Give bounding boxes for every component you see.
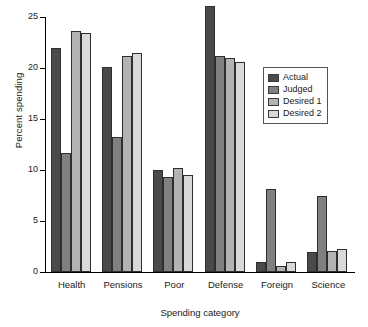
category-label-health: Health <box>46 279 97 290</box>
bar-pensions-judged <box>112 137 122 272</box>
bar-group-defense <box>205 17 245 272</box>
bar-poor-desired-1 <box>173 168 183 272</box>
y-tick-label: 10 <box>28 165 38 174</box>
legend-item-desired-2[interactable]: Desired 2 <box>268 108 322 119</box>
legend-item-judged[interactable]: Judged <box>268 84 322 95</box>
bar-science-desired-2 <box>337 249 347 272</box>
y-tick-label: 25 <box>28 12 38 21</box>
bar-defense-desired-1 <box>225 58 235 272</box>
legend-item-actual[interactable]: Actual <box>268 72 322 83</box>
legend-swatch-icon <box>268 86 279 94</box>
legend: ActualJudgedDesired 1Desired 2 <box>263 67 328 124</box>
bar-science-desired-1 <box>327 251 337 272</box>
y-tick-25 <box>40 17 45 18</box>
legend-swatch-icon <box>268 110 279 118</box>
bar-foreign-judged <box>266 189 276 272</box>
y-tick-5 <box>40 221 45 222</box>
bar-group-pensions <box>102 17 142 272</box>
plot-area <box>46 17 354 272</box>
bar-pensions-desired-1 <box>122 56 132 272</box>
bar-chart: Percent spending HealthPensionsPoorDefen… <box>0 0 368 327</box>
legend-swatch-icon <box>268 98 279 106</box>
bar-group-health <box>51 17 91 272</box>
bar-health-desired-1 <box>71 31 81 272</box>
legend-label: Judged <box>283 85 313 94</box>
legend-swatch-icon <box>268 74 279 82</box>
bar-group-foreign <box>256 17 296 272</box>
category-label-pensions: Pensions <box>97 279 148 290</box>
category-label-science: Science <box>303 279 354 290</box>
bar-health-judged <box>61 153 71 272</box>
bar-defense-actual <box>205 6 215 272</box>
category-label-defense: Defense <box>200 279 251 290</box>
bar-foreign-actual <box>256 262 266 272</box>
legend-label: Actual <box>283 73 308 82</box>
y-tick-20 <box>40 68 45 69</box>
bar-health-actual <box>51 48 61 272</box>
bar-pensions-desired-2 <box>132 53 142 272</box>
y-tick-label: 0 <box>33 267 38 276</box>
bar-poor-actual <box>153 170 163 272</box>
bar-health-desired-2 <box>81 33 91 272</box>
category-label-poor: Poor <box>149 279 200 290</box>
bar-foreign-desired-2 <box>286 262 296 272</box>
bar-pensions-actual <box>102 67 112 272</box>
bar-foreign-desired-1 <box>276 266 286 272</box>
y-tick-10 <box>40 170 45 171</box>
y-axis-title: Percent spending <box>13 41 24 181</box>
legend-label: Desired 1 <box>283 97 322 106</box>
y-tick-label: 20 <box>28 63 38 72</box>
legend-item-desired-1[interactable]: Desired 1 <box>268 96 322 107</box>
y-tick-0 <box>40 272 45 273</box>
x-axis-title: Spending category <box>46 307 354 318</box>
bar-science-judged <box>317 196 327 273</box>
bar-group-poor <box>153 17 193 272</box>
bar-poor-judged <box>163 177 173 272</box>
x-axis-line <box>45 272 355 273</box>
y-tick-15 <box>40 119 45 120</box>
bar-group-science <box>307 17 347 272</box>
y-tick-label: 15 <box>28 114 38 123</box>
bar-defense-desired-2 <box>235 62 245 272</box>
category-label-foreign: Foreign <box>251 279 302 290</box>
bar-defense-judged <box>215 56 225 272</box>
bar-science-actual <box>307 252 317 272</box>
y-tick-label: 5 <box>33 216 38 225</box>
bar-poor-desired-2 <box>183 175 193 272</box>
legend-label: Desired 2 <box>283 109 322 118</box>
